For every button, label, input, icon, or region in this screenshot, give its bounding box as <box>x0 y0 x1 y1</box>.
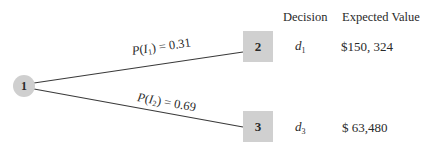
header-decision: Decision <box>283 10 327 25</box>
decision-tree-diagram: 1 P(I1) = 0.31 P(I2) = 0.69 2 3 Decision… <box>0 0 423 147</box>
decision-node-2: 2 <box>243 31 273 62</box>
header-expected-value: Expected Value <box>342 10 420 25</box>
node-label: 2 <box>255 39 262 55</box>
chance-node-1: 1 <box>13 75 35 97</box>
decision-cell-lower: d3 <box>295 119 306 136</box>
prob-subscript: 1 <box>147 47 152 56</box>
decision-node-3: 3 <box>243 111 273 142</box>
decision-cell-upper: d1 <box>295 38 306 55</box>
node-label: 1 <box>21 79 27 94</box>
node-label: 3 <box>255 119 262 135</box>
expected-value-lower: $ 63,480 <box>342 120 388 136</box>
prob-function: P <box>131 43 141 58</box>
decision-subscript: 3 <box>302 127 306 136</box>
prob-subscript: 2 <box>152 99 158 109</box>
prob-function: P <box>136 90 146 105</box>
expected-value-upper: $150, 324 <box>341 39 393 55</box>
decision-subscript: 1 <box>302 46 306 55</box>
